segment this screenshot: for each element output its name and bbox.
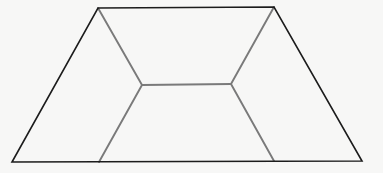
diagram-background: [0, 0, 383, 173]
trapezoid-diagram: [0, 0, 383, 173]
middle-horizontal-line: [142, 84, 231, 85]
